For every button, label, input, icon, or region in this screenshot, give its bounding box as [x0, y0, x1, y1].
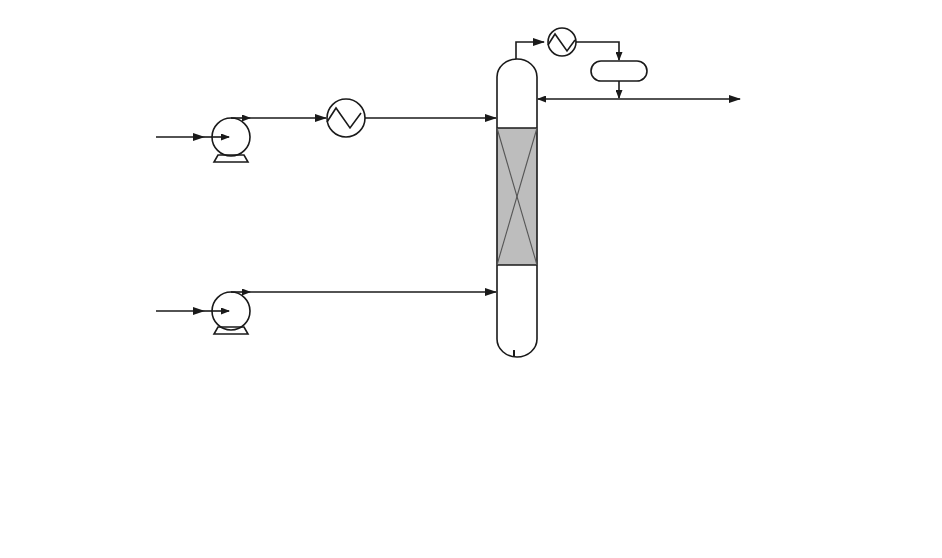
overhead-vapor-stream: [516, 42, 544, 59]
condenser-to-drum-stream: [576, 42, 619, 60]
reflux-drum-icon: [591, 61, 647, 81]
palm-oil-pump-icon: [212, 118, 250, 162]
reactive-distillation-column-icon: [497, 59, 537, 357]
methanol-pump-icon: [212, 292, 250, 334]
process-flow-diagram: [0, 0, 942, 558]
condenser-icon: [548, 28, 576, 56]
palm-oil-preheater-icon: [327, 99, 365, 137]
diagram-graphics: [0, 0, 942, 558]
